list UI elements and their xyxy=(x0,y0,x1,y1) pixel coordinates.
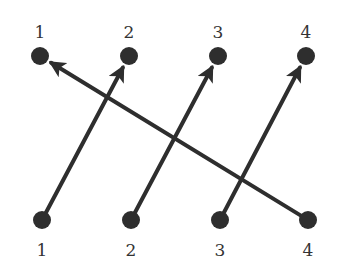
bottom-node-label: 2 xyxy=(126,240,137,260)
bottom-node-2 xyxy=(122,211,140,229)
arrow-b2-to-t3 xyxy=(133,67,212,216)
top-node-label: 1 xyxy=(35,22,46,42)
arrow-b1-to-t2 xyxy=(44,67,123,216)
top-node-1 xyxy=(31,47,49,65)
bottom-node-3 xyxy=(211,211,229,229)
top-node-label: 4 xyxy=(301,22,312,42)
top-node-label: 2 xyxy=(124,22,135,42)
bottom-node-1 xyxy=(33,211,51,229)
mapping-diagram: 12341234 xyxy=(0,0,340,270)
top-node-label: 3 xyxy=(213,22,224,42)
arrows-group xyxy=(44,63,305,218)
top-node-3 xyxy=(209,47,227,65)
arrow-b4-to-t1 xyxy=(51,63,304,218)
bottom-node-label: 1 xyxy=(37,240,48,260)
top-node-2 xyxy=(120,47,138,65)
bottom-node-label: 3 xyxy=(215,240,226,260)
arrow-b3-to-t4 xyxy=(222,68,300,217)
bottom-node-label: 4 xyxy=(303,240,314,260)
bottom-node-4 xyxy=(299,211,317,229)
top-node-4 xyxy=(297,47,315,65)
